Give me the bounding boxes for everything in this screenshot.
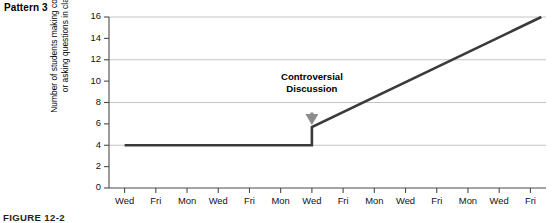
y-axis-tick-label: 16 <box>91 10 101 21</box>
down-arrow-icon <box>305 113 318 126</box>
x-axis-tick-label: Mon <box>178 195 196 206</box>
y-axis-tick-label: 2 <box>96 160 101 171</box>
line-chart: 0246810121416 WedFriMonWedFriMonWedFriMo… <box>0 0 560 223</box>
y-axis-tick-label: 6 <box>96 117 101 128</box>
x-axis-tick-label: Fri <box>244 195 255 206</box>
y-axis-tick-label: 0 <box>96 181 101 192</box>
x-axis-tick-label: Fri <box>431 195 442 206</box>
x-axis-tick-label: Fri <box>338 195 349 206</box>
x-axis-tick-label: Wed <box>396 195 415 206</box>
y-axis-tick-label: 8 <box>96 96 101 107</box>
x-axis-tick-label: Fri <box>525 195 536 206</box>
figure-caption: FIGURE 12-2 <box>3 212 65 223</box>
figure-container: Pattern 3 Number of students making comm… <box>0 0 560 223</box>
y-axis-tick-label: 12 <box>91 53 101 64</box>
x-axis-tick-label: Wed <box>490 195 509 206</box>
x-axis-ticks <box>125 188 531 193</box>
annotation-text-line-2: Discussion <box>286 83 337 94</box>
annotation-text-line-1: Controversial <box>281 71 343 82</box>
y-axis-tick-label: 4 <box>96 139 101 150</box>
x-axis-tick-label: Mon <box>459 195 477 206</box>
x-axis-tick-label: Wed <box>115 195 134 206</box>
x-axis-tick-label: Fri <box>150 195 161 206</box>
y-axis-tick-label: 14 <box>91 32 101 43</box>
y-axis-tick-label: 10 <box>91 75 101 86</box>
y-axis-tick-labels: 0246810121416 <box>91 10 101 192</box>
x-axis-tick-label: Mon <box>365 195 383 206</box>
x-axis-tick-label: Mon <box>272 195 290 206</box>
x-axis-tick-label: Wed <box>209 195 228 206</box>
y-axis-ticks <box>104 17 109 188</box>
x-axis-tick-labels: WedFriMonWedFriMonWedFriMonWedFriMonWedF… <box>115 195 536 206</box>
x-axis-tick-label: Wed <box>302 195 321 206</box>
